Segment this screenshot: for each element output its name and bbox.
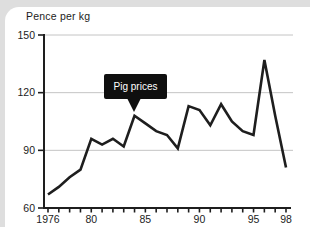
y-tick-label: 150 <box>17 29 35 41</box>
y-tick-label: 60 <box>23 202 35 214</box>
x-tick-label: 95 <box>248 213 260 225</box>
y-tick-label: 120 <box>17 86 35 98</box>
y-tick-label: 90 <box>23 144 35 156</box>
screenshot-stage: Pence per kg 609012015019768085909598 Pi… <box>0 0 310 242</box>
callout-pointer-icon <box>127 98 141 112</box>
x-tick-label: 90 <box>194 213 206 225</box>
price-line <box>48 60 286 195</box>
pig-prices-line-chart: 609012015019768085909598 <box>0 0 310 242</box>
x-tick-label: 1976 <box>36 213 60 225</box>
pig-prices-callout-label: Pig prices <box>114 81 158 92</box>
x-tick-label: 85 <box>140 213 152 225</box>
x-tick-label: 98 <box>280 213 292 225</box>
pig-prices-callout: Pig prices <box>104 74 167 99</box>
x-tick-label: 80 <box>85 213 97 225</box>
